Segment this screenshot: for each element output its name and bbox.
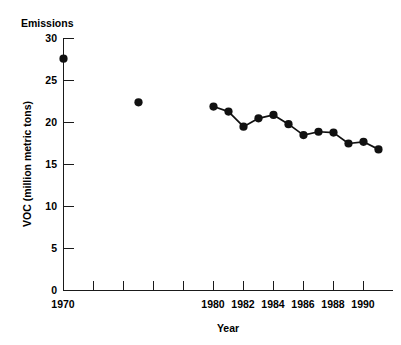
data-point bbox=[239, 123, 247, 131]
y-axis-tick-labels: 30 25 20 15 10 5 0 bbox=[45, 32, 57, 296]
y-tick-label-15: 15 bbox=[45, 158, 57, 170]
x-tick-label-1980: 1980 bbox=[201, 298, 225, 310]
data-point bbox=[284, 120, 292, 128]
data-point bbox=[329, 128, 337, 136]
x-tick-label-1990: 1990 bbox=[351, 298, 375, 310]
data-point bbox=[269, 111, 277, 119]
data-point bbox=[59, 55, 67, 63]
y-axis-title: VOC (million metric tons) bbox=[21, 101, 33, 227]
y-tick-label-20: 20 bbox=[45, 116, 57, 128]
voc-emissions-chart: Emissions 30 25 20 15 10 5 0 bbox=[0, 0, 401, 345]
data-point bbox=[359, 138, 367, 146]
y-tick-label-30: 30 bbox=[45, 32, 57, 44]
x-axis-title: Year bbox=[217, 322, 239, 334]
y-tick-label-5: 5 bbox=[51, 242, 57, 254]
x-tick-label-1982: 1982 bbox=[231, 298, 255, 310]
x-tick-label-1970: 1970 bbox=[51, 298, 75, 310]
x-tick-label-1988: 1988 bbox=[321, 298, 345, 310]
y-tick-label-0: 0 bbox=[51, 284, 57, 296]
series-connected-points bbox=[209, 102, 382, 153]
data-point bbox=[224, 107, 232, 115]
y-tick-label-25: 25 bbox=[45, 74, 57, 86]
chart-canvas: Emissions 30 25 20 15 10 5 0 bbox=[0, 0, 401, 345]
data-point bbox=[254, 114, 262, 122]
data-point bbox=[314, 128, 322, 136]
data-point bbox=[134, 98, 142, 106]
y-axis-group: 30 25 20 15 10 5 0 VOC (million metric t… bbox=[21, 32, 74, 296]
data-point bbox=[374, 145, 382, 153]
data-point bbox=[209, 102, 217, 110]
data-point bbox=[299, 131, 307, 139]
x-axis-ticks bbox=[64, 281, 364, 291]
chart-header-group: Emissions bbox=[21, 17, 74, 29]
x-axis-group: 1970 1980 1982 1984 1986 1988 1990 Year bbox=[51, 281, 393, 334]
y-axis-ticks bbox=[64, 39, 75, 291]
x-axis-tick-labels: 1970 1980 1982 1984 1986 1988 1990 bbox=[51, 298, 375, 310]
series-connected-line bbox=[214, 107, 379, 150]
data-point bbox=[344, 139, 352, 147]
x-tick-label-1986: 1986 bbox=[291, 298, 315, 310]
chart-header-label: Emissions bbox=[21, 17, 74, 29]
y-tick-label-10: 10 bbox=[45, 200, 57, 212]
x-tick-label-1984: 1984 bbox=[261, 298, 285, 310]
